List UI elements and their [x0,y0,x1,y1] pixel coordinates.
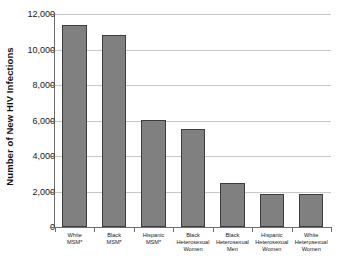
x-category-label-line: White [56,232,93,239]
bar-slot [292,14,331,227]
x-axis-category-labels: WhiteMSM*BlackMSM*HispanicMSM*BlackHeter… [55,232,331,262]
bar-slot [252,14,291,227]
x-category-label-line: White [293,232,330,239]
x-category-label-line: MSM* [135,239,172,246]
x-category-label: BlackMSM* [94,232,133,262]
x-category-label-line: Women [174,246,211,253]
x-category-label-line: Hispanic [253,232,290,239]
y-tick-label: 6,000 [17,116,55,126]
x-category-label-line: Women [253,246,290,253]
y-axis-tick-labels: 02,0004,0006,0008,00010,00012,000 [10,0,55,264]
x-category-label-line: Black [174,232,211,239]
y-tick-label: 8,000 [17,80,55,90]
x-category-label: HispanicHeterosexualWomen [252,232,291,262]
bar-slot [55,14,94,227]
bar-slot [173,14,212,227]
x-category-label-line: MSM* [95,239,132,246]
x-category-label-line: Heterosexual [253,239,290,246]
x-category-label: BlackHeterosexualWomen [173,232,212,262]
y-tick-label: 0 [17,222,55,232]
y-tick-label: 4,000 [17,151,55,161]
hiv-infections-bar-chart: Number of New HIV Infections 02,0004,000… [0,0,343,264]
x-category-label-line: Women [293,246,330,253]
x-category-label-line: Heterosexual [174,239,211,246]
bar[interactable] [62,25,86,227]
bar-slot [213,14,252,227]
bar[interactable] [141,120,165,227]
x-category-label-line: Black [214,232,251,239]
x-category-label-line: Men [214,246,251,253]
bar-slot [94,14,133,227]
x-category-label: BlackHeterosexualMen [213,232,252,262]
x-category-label-line: Heterosexual [214,239,251,246]
bar-slot [134,14,173,227]
y-tick-label: 2,000 [17,187,55,197]
x-category-label-line: MSM* [56,239,93,246]
x-category-label: WhiteMSM* [55,232,94,262]
bar[interactable] [220,183,244,227]
x-category-label-line: Black [95,232,132,239]
x-category-label: HispanicMSM* [134,232,173,262]
x-category-label-line: Hispanic [135,232,172,239]
x-axis-line [54,227,332,228]
bars-layer [55,14,331,227]
y-tick-label: 10,000 [17,45,55,55]
bar[interactable] [102,35,126,227]
x-category-label: WhiteHeterosexualWomen [292,232,331,262]
bar[interactable] [260,194,284,227]
x-category-label-line: Heterosexual [293,239,330,246]
y-tick-label: 12,000 [17,9,55,19]
bar[interactable] [299,194,323,227]
bar[interactable] [181,129,205,227]
